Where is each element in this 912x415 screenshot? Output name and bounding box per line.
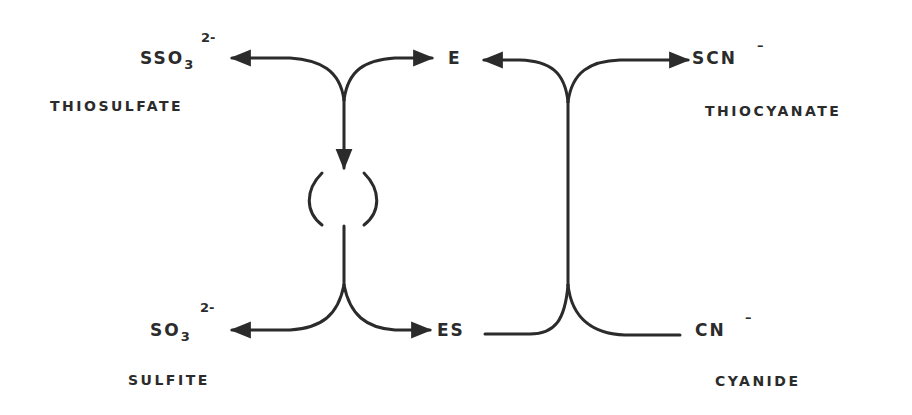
intermediate-right-paren <box>364 173 377 225</box>
arrow-to-thiosulfate <box>232 58 344 100</box>
arrow-to-sulfite <box>232 285 344 330</box>
thiocyanate-label: THIOCYANATE <box>705 103 841 119</box>
sulfite-formula: SO3 <box>150 320 192 340</box>
arrow-to-es <box>344 285 430 330</box>
cyanide-label: CYANIDE <box>715 373 801 389</box>
sulfite-subscript: 3 <box>181 329 192 344</box>
cyanide-charge: – <box>745 310 752 325</box>
sulfite-formula-text: SO <box>150 320 181 340</box>
line-cn-to-junction <box>568 285 680 335</box>
intermediate-left-paren <box>309 173 322 225</box>
enzyme-substrate-label: ES <box>437 320 465 340</box>
thiosulfate-formula-text: SSO <box>140 48 184 68</box>
thiosulfate-formula: SSO3 <box>140 48 195 68</box>
enzyme-label: E <box>448 48 462 68</box>
thiosulfate-charge: 2- <box>201 30 215 45</box>
arrow-to-enzyme-right <box>484 60 568 102</box>
thiocyanate-charge: – <box>757 38 764 53</box>
thiosulfate-label: THIOSULFATE <box>50 98 183 114</box>
arrow-to-thiocyanate <box>568 60 688 102</box>
line-es-to-junction <box>485 285 568 334</box>
thiocyanate-formula: SCN <box>692 48 737 68</box>
sulfite-charge: 2- <box>200 300 214 315</box>
sulfite-label: SULFITE <box>128 372 210 388</box>
thiosulfate-subscript: 3 <box>184 57 195 72</box>
cyanide-formula: CN <box>695 320 726 340</box>
arrow-to-enzyme <box>344 58 432 100</box>
